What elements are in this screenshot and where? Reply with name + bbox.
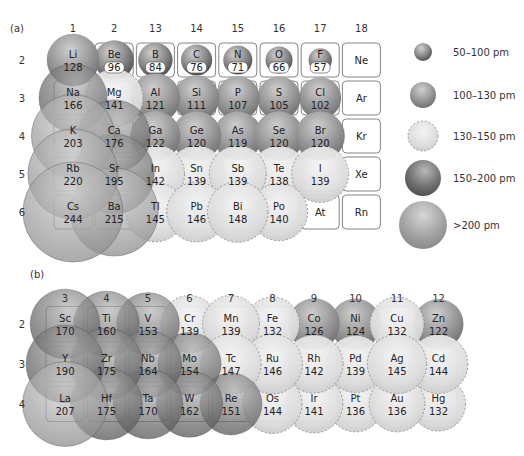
legend-swatch-c3: [408, 121, 438, 151]
element-symbol: Tc: [225, 353, 236, 364]
panel-b-period-label: 2: [19, 319, 25, 330]
atomic-radius-value: 84: [149, 62, 162, 73]
legend-label: 100–130 pm: [453, 90, 515, 101]
atom-sphere-ag: [367, 334, 426, 393]
element-symbol: S: [276, 87, 282, 98]
element-symbol: Hg: [432, 393, 446, 404]
panel-a-group-label: 17: [314, 23, 327, 34]
atomic-radius-value: 136: [346, 406, 365, 417]
atomic-radius-value: 120: [311, 138, 330, 149]
atomic-radius-value: 195: [105, 176, 124, 187]
element-symbol: Se: [273, 125, 286, 136]
panel-b-group-label: 11: [391, 293, 404, 304]
panel-a-group-label: 13: [149, 23, 162, 34]
atomic-radius-value: 190: [55, 366, 74, 377]
atomic-radius-value: 154: [180, 366, 199, 377]
element-symbol: Br: [315, 125, 327, 136]
atomic-radius-value: 111: [187, 100, 206, 111]
element-symbol: C: [193, 49, 200, 60]
element-symbol: Be: [108, 49, 121, 60]
atomic-radius-value: 244: [63, 214, 82, 225]
atom-sphere-bi: [207, 182, 268, 243]
legend-swatch-c4: [405, 160, 441, 196]
atomic-radius-value: 220: [63, 176, 82, 187]
element-symbol: Ag: [390, 353, 403, 364]
panel-a-group-label: 1: [70, 23, 76, 34]
panel-a-group-label: 14: [190, 23, 203, 34]
element-symbol: Na: [66, 87, 80, 98]
panel-a-group-label: 16: [273, 23, 286, 34]
atomic-radius-value: 132: [387, 326, 406, 337]
element-symbol: K: [70, 125, 77, 136]
panel-a-period-label: 3: [19, 93, 25, 104]
element-symbol: Xe: [355, 169, 368, 180]
element-symbol: Pd: [349, 353, 361, 364]
atomic-radius-value: 139: [228, 176, 247, 187]
diagram-canvas: (a)1213141516171823456Li128Be96B84C76N71…: [0, 0, 524, 456]
element-symbol: W: [185, 393, 195, 404]
atomic-radius-value: 71: [231, 62, 244, 73]
panel-b-group-label: 9: [311, 293, 317, 304]
panel-b-group-label: 4: [103, 293, 109, 304]
atomic-radius-value: 175: [97, 406, 116, 417]
atomic-radius-value: 139: [221, 326, 240, 337]
atomic-radius-value: 166: [63, 100, 82, 111]
element-symbol: Tl: [150, 201, 160, 212]
panel-b-group-label: 8: [269, 293, 275, 304]
element-symbol: I: [319, 163, 322, 174]
element-symbol: F: [317, 49, 323, 60]
atomic-radius-value: 144: [263, 406, 282, 417]
atomic-radius-value: 170: [55, 326, 74, 337]
element-symbol: Os: [266, 393, 279, 404]
atomic-radius-value: 120: [187, 138, 206, 149]
element-symbol: Cs: [67, 201, 79, 212]
atomic-radius-value: 175: [97, 366, 116, 377]
atomic-radius-value: 136: [387, 406, 406, 417]
atomic-radius-value: 76: [190, 62, 203, 73]
element-symbol: B: [152, 49, 159, 60]
legend-label: >200 pm: [453, 220, 500, 231]
atomic-radius-value: 142: [304, 366, 323, 377]
atomic-radius-value: 145: [387, 366, 406, 377]
element-symbol: Bi: [233, 201, 243, 212]
atomic-radius-value: 102: [311, 100, 330, 111]
legend-label: 50–100 pm: [453, 47, 509, 58]
element-symbol: Zr: [101, 353, 113, 364]
atomic-radius-value: 207: [55, 406, 74, 417]
element-symbol: Mg: [107, 87, 122, 98]
element-symbol: Co: [307, 313, 320, 324]
element-symbol: Ru: [266, 353, 279, 364]
atomic-radius-value: 66: [273, 62, 286, 73]
element-symbol: La: [59, 393, 71, 404]
atomic-radius-value: 176: [105, 138, 124, 149]
element-symbol: Mo: [182, 353, 197, 364]
element-symbol: As: [232, 125, 244, 136]
atomic-radius-value: 146: [187, 214, 206, 225]
element-symbol: Rh: [307, 353, 320, 364]
element-symbol: V: [145, 313, 152, 324]
element-symbol: Rb: [66, 163, 79, 174]
element-symbol: Al: [151, 87, 161, 98]
element-symbol: Ni: [350, 313, 360, 324]
element-symbol: Li: [69, 49, 77, 60]
atomic-radius-value: 151: [221, 406, 240, 417]
panel-b-period-label: 3: [19, 359, 25, 370]
atomic-radius-value: 124: [346, 326, 365, 337]
periodic-radius-diagram: (a)1213141516171823456Li128Be96B84C76N71…: [0, 0, 524, 456]
atomic-radius-value: 215: [105, 214, 124, 225]
atomic-radius-value: 132: [429, 406, 448, 417]
element-symbol: Ti: [101, 313, 111, 324]
legend-swatch-c2: [410, 82, 436, 108]
atomic-radius-value: 139: [180, 326, 199, 337]
element-symbol: Ga: [148, 125, 162, 136]
atomic-radius-value: 122: [429, 326, 448, 337]
element-symbol: Cr: [184, 313, 196, 324]
element-symbol: Zn: [432, 313, 445, 324]
element-symbol: Cu: [390, 313, 403, 324]
atomic-radius-value: 148: [228, 214, 247, 225]
element-symbol: Pt: [351, 393, 361, 404]
legend: 50–100 pm100–130 pm130–150 pm150–200 pm>…: [399, 43, 515, 249]
element-symbol: Y: [61, 353, 69, 364]
panel-b-group-label: 3: [62, 293, 68, 304]
legend-label: 150–200 pm: [453, 173, 515, 184]
